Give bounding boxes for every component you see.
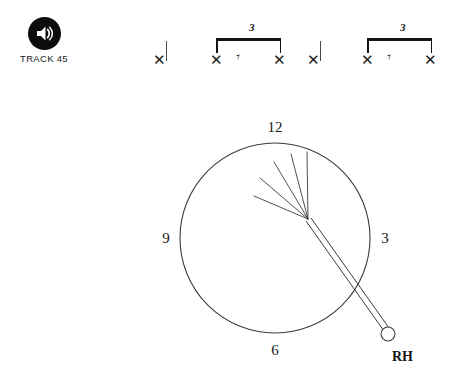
tuplet-beam [367, 38, 432, 41]
clock-position-diagram: 12 3 6 9 RH [150, 110, 450, 375]
notehead-x: ✕ [210, 53, 223, 68]
notehead-x: ✕ [273, 53, 286, 68]
clock-number-3: 3 [378, 231, 392, 246]
tuplet-leg-right [431, 38, 433, 53]
tuplet-number: 3 [400, 22, 406, 33]
clock-number-9: 9 [159, 231, 173, 246]
tuplet-leg-right [280, 38, 282, 53]
notehead-x: ✕ [307, 53, 320, 68]
eighth-rest: 𝄾 [236, 50, 240, 65]
hand-label-rh: RH [392, 350, 413, 364]
clock-number-12: 12 [263, 120, 287, 135]
tuplet-beam [216, 38, 281, 41]
note-stem [166, 41, 167, 61]
tuplet-number: 3 [249, 22, 255, 33]
note-stem [320, 41, 321, 61]
notehead-x: ✕ [361, 53, 374, 68]
notehead-x: ✕ [424, 53, 437, 68]
tuplet-leg-left [216, 38, 218, 53]
notehead-x: ✕ [153, 53, 166, 68]
eighth-rest: 𝄾 [387, 50, 391, 65]
rhythm-notation: ✕ 3 ✕ 𝄾 ✕ ✕ 3 ✕ 𝄾 ✕ [0, 0, 466, 95]
clock-number-6: 6 [268, 343, 282, 358]
drum-lesson-page: TRACK 45 ✕ 3 ✕ 𝄾 ✕ ✕ 3 ✕ [0, 0, 466, 378]
tuplet-leg-left [367, 38, 369, 53]
